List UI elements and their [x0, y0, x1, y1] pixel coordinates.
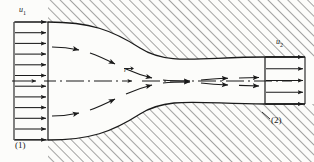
centerline-vector-label: r — [124, 66, 127, 74]
outlet-velocity-label: u2 — [276, 38, 283, 48]
flow-diagram-figure: u1 u2 (1) (2) r — [0, 0, 314, 162]
section-two-label: (2) — [271, 116, 282, 125]
diagram-canvas — [0, 0, 314, 162]
inlet-velocity-label: u1 — [19, 6, 26, 16]
section-one-label: (1) — [15, 141, 26, 150]
upper-wall-hatching — [44, 0, 314, 68]
